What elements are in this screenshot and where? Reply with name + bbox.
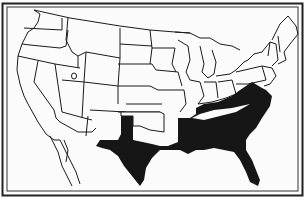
map-container	[0, 0, 307, 203]
us-map	[0, 0, 307, 203]
